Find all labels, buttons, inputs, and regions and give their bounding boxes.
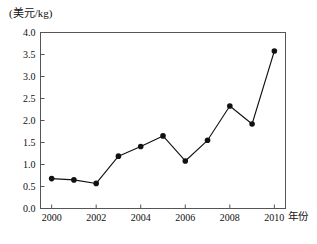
x-tick-label: 2004 (131, 212, 151, 223)
y-tick-label: 3.5 (23, 49, 36, 60)
x-tick-label: 2006 (175, 212, 195, 223)
plot-frame (41, 33, 286, 209)
y-tick-label: 1.0 (23, 159, 36, 170)
y-tick-label: 1.5 (23, 137, 36, 148)
data-point (71, 177, 77, 183)
x-tick-label: 2008 (220, 212, 240, 223)
data-point (182, 158, 188, 164)
data-point (49, 176, 55, 182)
y-tick-label: 0.5 (23, 181, 36, 192)
chart-plot-area: 0.00.51.01.52.02.53.03.54.0 200020022004… (0, 0, 317, 244)
y-tick-label: 2.5 (23, 93, 36, 104)
data-point (138, 144, 144, 150)
data-point (93, 181, 99, 187)
data-point (160, 133, 166, 139)
data-point (205, 138, 211, 144)
y-tick-label: 0.0 (23, 203, 36, 214)
y-tick-label: 4.0 (23, 27, 36, 38)
data-point (272, 48, 278, 54)
data-point (249, 121, 255, 127)
x-tick-label: 2002 (86, 212, 106, 223)
x-tick-label: 2000 (42, 212, 62, 223)
x-tick-label: 2010 (264, 212, 284, 223)
y-tick-label: 2.0 (23, 115, 36, 126)
x-axis-title: 年份 (288, 210, 308, 223)
y-tick-label: 3.0 (23, 71, 36, 82)
line-chart: (美元/kg) 0.00.51.01.52.02.53.03.54.0 2000… (0, 0, 317, 244)
data-point (116, 153, 122, 159)
plot-frame-rect (41, 33, 286, 209)
data-point (227, 103, 233, 109)
